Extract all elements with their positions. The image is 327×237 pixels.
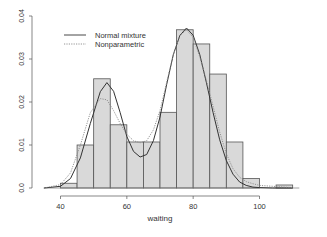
histogram-bar: [94, 79, 111, 188]
y-axis: 0.00.010.020.030.04: [18, 9, 32, 193]
histogram-bar: [127, 142, 144, 188]
histogram-bar: [77, 145, 94, 188]
y-tick-label: 0.04: [18, 9, 25, 23]
histogram-bar: [160, 112, 177, 188]
x-tick-label: 80: [189, 202, 197, 211]
legend-label-normal-mixture: Normal mixture: [95, 31, 146, 40]
histogram-bar: [177, 30, 194, 188]
x-axis: 406080100: [56, 196, 265, 211]
y-tick-label: 0.03: [18, 52, 25, 66]
histogram-bar: [110, 125, 127, 188]
x-tick-label: 60: [123, 202, 131, 211]
y-tick-label: 0.01: [18, 138, 25, 152]
histogram-chart: 0.00.010.020.030.04 406080100 waiting No…: [0, 0, 327, 237]
histogram-bar: [193, 44, 210, 188]
y-tick-label: 0.0: [18, 183, 25, 193]
y-tick-label: 0.02: [18, 95, 25, 109]
x-axis-label: waiting: [147, 214, 173, 223]
x-tick-label: 100: [253, 202, 266, 211]
legend: Normal mixture Nonparametric: [64, 31, 146, 49]
x-tick-label: 40: [56, 202, 64, 211]
legend-label-nonparametric: Nonparametric: [95, 40, 144, 49]
histogram-bar: [143, 142, 160, 188]
